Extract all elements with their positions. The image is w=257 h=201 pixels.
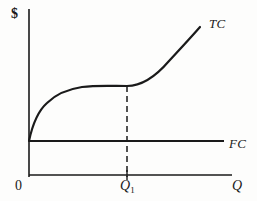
tc-curve	[29, 27, 200, 141]
fc-line-label: FC	[229, 137, 246, 150]
q1-axis-tick-label: Q1	[120, 179, 135, 195]
y-axis-label: $	[11, 7, 18, 21]
x-axis-label: Q	[232, 179, 242, 193]
q1-subscript: 1	[130, 185, 135, 195]
cost-curve-figure: $ 0 Q1 Q TC FC	[0, 0, 257, 201]
tc-curve-label: TC	[209, 17, 226, 30]
q1-base-letter: Q	[120, 178, 130, 193]
origin-label: 0	[15, 179, 22, 193]
